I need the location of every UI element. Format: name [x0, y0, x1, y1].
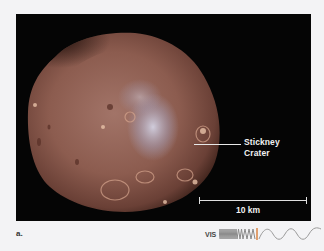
- spectrum-indicator: VIS: [205, 227, 321, 241]
- stickney-crater-label: Stickney Crater: [244, 137, 280, 159]
- spectrum-label: VIS: [205, 231, 216, 238]
- label-line-2: Crater: [244, 148, 280, 159]
- wavelength-spectrum-icon: [219, 227, 321, 241]
- image-panel: Stickney Crater 10 km: [16, 14, 311, 221]
- scale-bar: [199, 200, 307, 201]
- phobos-moon-image: [25, 27, 222, 213]
- scale-bar-label: 10 km: [236, 205, 260, 215]
- stickney-leader-line: [194, 144, 241, 145]
- label-line-1: Stickney: [244, 137, 280, 148]
- figure-letter: a.: [16, 229, 23, 238]
